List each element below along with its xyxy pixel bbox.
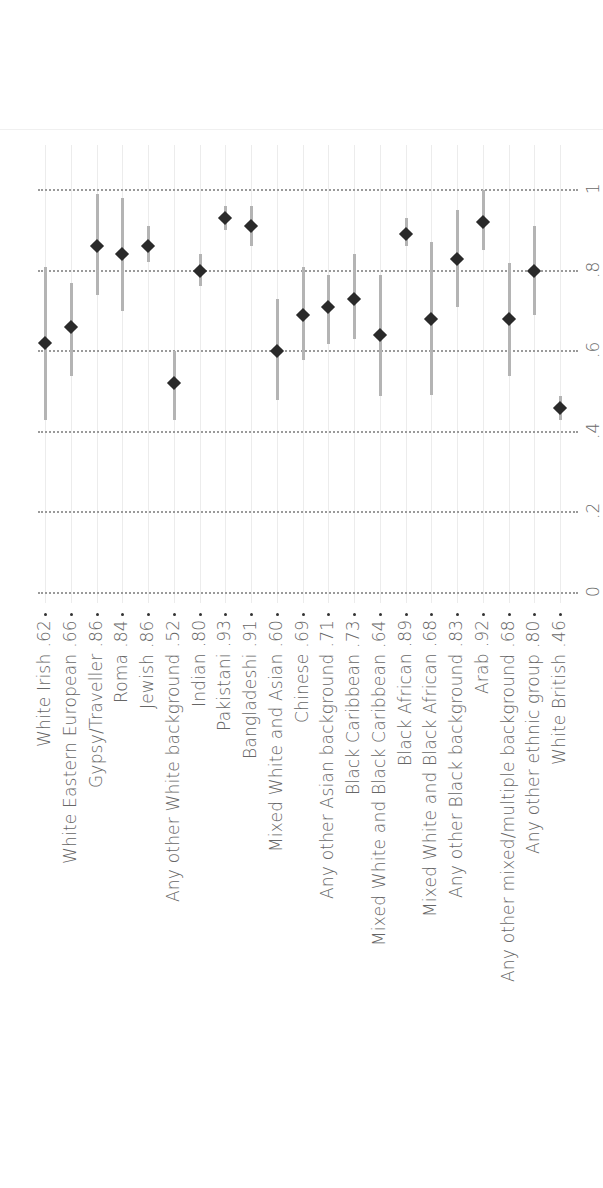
category-label: Any other White background.52: [163, 620, 183, 902]
category-value: .91: [240, 620, 260, 648]
category-label: Black Caribbean.73: [343, 620, 363, 795]
category-label: White Eastern European.66: [60, 620, 80, 864]
estimate-diamond-icon: [167, 376, 181, 390]
category-name: Arab: [472, 653, 492, 694]
category-value: .84: [111, 620, 131, 648]
estimate-diamond-icon: [38, 336, 52, 350]
category-value: .92: [472, 620, 492, 648]
category-value: .80: [523, 620, 543, 648]
category-label: Black African.89: [395, 620, 415, 766]
tick-label: .6: [583, 342, 603, 358]
category-tick-dot: [456, 613, 459, 616]
category-name: Gypsy/Traveller: [86, 654, 106, 788]
category-name: Roma: [111, 654, 131, 703]
category-column-line: [303, 145, 304, 603]
category-label: Any other ethnic group.80: [523, 620, 543, 854]
dot-plot-chart: 0.2.4.6.81 White Irish.62White Eastern E…: [0, 0, 603, 1188]
top-divider: [0, 129, 603, 130]
category-label: Pakistani.93: [214, 620, 234, 731]
category-name: Black Caribbean: [343, 654, 363, 795]
category-name: Any other ethnic group: [523, 654, 543, 854]
category-tick-dot: [96, 613, 99, 616]
category-name: White British: [549, 654, 569, 765]
category-label: Any other Asian background.71: [317, 620, 337, 899]
category-name: Mixed White and Asian: [266, 654, 286, 852]
tick-label: .8: [583, 262, 603, 278]
category-name: Chinese: [292, 654, 312, 723]
category-name: White Irish: [34, 654, 54, 747]
estimate-diamond-icon: [193, 264, 207, 278]
category-label: Arab.92: [472, 620, 492, 694]
category-name: Black African: [395, 653, 415, 766]
category-tick-dot: [224, 613, 227, 616]
category-tick-dot: [276, 613, 279, 616]
tick-label: 1: [583, 183, 603, 194]
estimate-diamond-icon: [321, 300, 335, 314]
estimate-diamond-icon: [476, 215, 490, 229]
category-name: Mixed White and Black Caribbean: [369, 654, 389, 946]
estimate-diamond-icon: [141, 239, 155, 253]
category-tick-dot: [430, 613, 433, 616]
category-value: .86: [137, 620, 157, 648]
estimate-diamond-icon: [553, 401, 567, 415]
category-tick-dot: [147, 613, 150, 616]
estimate-diamond-icon: [244, 219, 258, 233]
category-tick-dot: [44, 613, 47, 616]
category-column-line: [534, 145, 535, 603]
category-name: Pakistani: [214, 653, 234, 731]
category-tick-dot: [302, 613, 305, 616]
category-value: .62: [34, 620, 54, 648]
tick-label: .2: [583, 503, 603, 519]
category-tick-dot: [482, 613, 485, 616]
category-column-line: [560, 145, 561, 603]
category-label: Chinese.69: [292, 620, 312, 723]
category-name: Any other Black background: [446, 653, 466, 898]
category-column-line: [148, 145, 149, 603]
category-column-line: [406, 145, 407, 603]
estimate-diamond-icon: [527, 264, 541, 278]
category-label: Gypsy/Traveller.86: [86, 620, 106, 788]
category-name: Any other White background: [163, 653, 183, 902]
category-value: .83: [446, 620, 466, 648]
category-column-line: [354, 145, 355, 603]
category-label: Bangladeshi.91: [240, 620, 260, 759]
category-label: White British.46: [549, 620, 569, 765]
gridline-p6: [38, 350, 578, 352]
category-tick-dot: [121, 613, 124, 616]
gridline-p2: [38, 511, 578, 513]
category-value: .86: [86, 620, 106, 648]
category-value: .93: [214, 620, 234, 648]
category-tick-dot: [379, 613, 382, 616]
category-tick-dot: [173, 613, 176, 616]
estimate-diamond-icon: [296, 308, 310, 322]
category-label: Any other mixed/multiple background.68: [498, 620, 518, 982]
category-tick-dot: [327, 613, 330, 616]
category-column-line: [200, 145, 201, 603]
category-value: .68: [420, 620, 440, 648]
category-value: .89: [395, 620, 415, 648]
category-value: .80: [189, 620, 209, 648]
category-tick-dot: [70, 613, 73, 616]
category-tick-dot: [405, 613, 408, 616]
category-value: .52: [163, 620, 183, 648]
category-name: Mixed White and Black African: [420, 653, 440, 917]
category-tick-dot: [353, 613, 356, 616]
estimate-diamond-icon: [90, 239, 104, 253]
category-tick-dot: [250, 613, 253, 616]
category-label: Indian.80: [189, 620, 209, 707]
category-name: Bangladeshi: [240, 654, 260, 759]
estimate-diamond-icon: [270, 344, 284, 358]
category-value: .73: [343, 620, 363, 648]
category-name: Jewish: [137, 654, 157, 709]
category-label: Any other Black background.83: [446, 620, 466, 898]
gridline-p4: [38, 431, 578, 433]
category-label: Mixed White and Black Caribbean.64: [369, 620, 389, 946]
category-label: White Irish.62: [34, 620, 54, 747]
category-tick-dot: [199, 613, 202, 616]
estimate-diamond-icon: [424, 312, 438, 326]
category-name: Any other Asian background: [317, 653, 337, 899]
category-value: .69: [292, 620, 312, 648]
estimate-diamond-icon: [502, 312, 516, 326]
category-name: Any other mixed/multiple background: [498, 654, 518, 982]
tick-label: 0: [583, 586, 603, 597]
